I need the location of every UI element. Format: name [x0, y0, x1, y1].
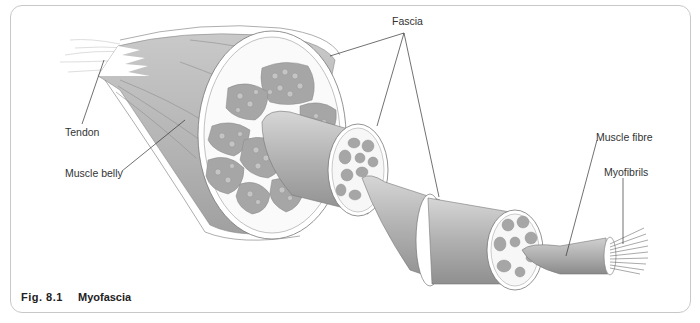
label-muscle-belly: Muscle belly: [65, 167, 123, 179]
figure-caption: Fig. 8.1 Myofascia: [21, 291, 131, 303]
label-tendon: Tendon: [65, 126, 99, 138]
figure-number: Fig. 8.1: [21, 291, 63, 303]
myofascia-illustration: [0, 0, 700, 323]
figure-title: Myofascia: [78, 291, 131, 303]
label-fascia: Fascia: [392, 15, 423, 27]
label-muscle-fibre: Muscle fibre: [596, 131, 653, 143]
fibre-bundle: [362, 176, 543, 290]
label-myofibrils: Myofibrils: [604, 166, 648, 178]
